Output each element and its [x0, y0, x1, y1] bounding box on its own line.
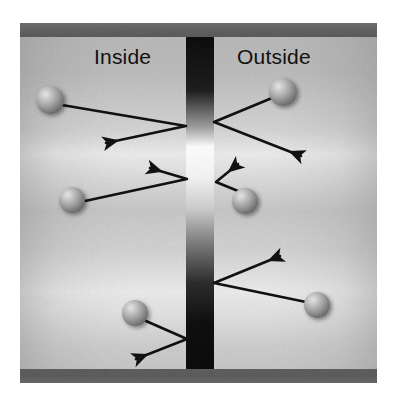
diagram-canvas — [0, 0, 394, 408]
particle-inside-top — [36, 86, 64, 114]
figure-root: Inside Outside — [0, 0, 394, 408]
particle-outside-bottom — [304, 292, 330, 318]
particle-outside-middle — [232, 188, 258, 214]
particle-inside-middle — [59, 187, 85, 213]
particle-inside-bottom — [122, 300, 148, 326]
membrane-barrier — [186, 37, 214, 369]
label-outside: Outside — [237, 46, 311, 67]
particle-outside-top — [269, 78, 297, 106]
label-inside: Inside — [94, 46, 151, 67]
